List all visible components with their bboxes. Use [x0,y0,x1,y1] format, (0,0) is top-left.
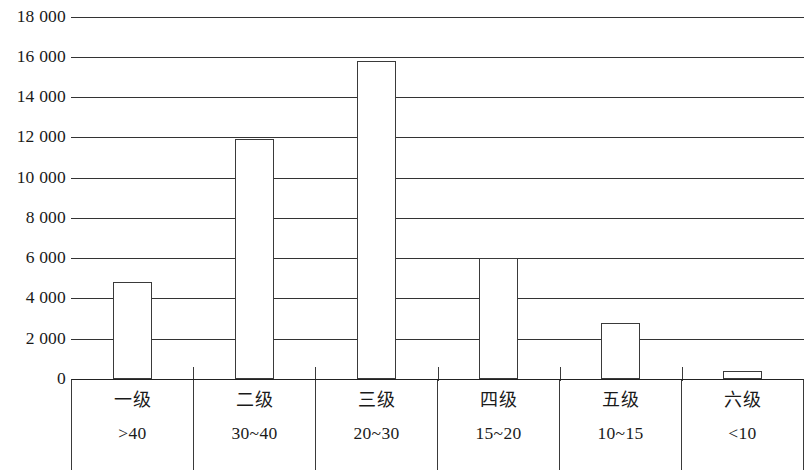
gridline [71,97,804,98]
category-cell: 四级15~20 [438,380,560,470]
bar-三级 [357,61,396,379]
y-axis-tick-label: 16 000 [0,48,66,66]
bar-chart: 02 0004 0006 0008 00010 00012 00014 0001… [0,0,804,470]
bar-四级 [479,258,518,379]
category-cell: 一级>40 [72,380,194,470]
y-axis-tick-label: 4 000 [0,289,66,307]
category-grade-label: 五级 [602,389,640,412]
gridline [71,17,804,18]
y-axis-tick-label: 10 000 [0,169,66,187]
plot-area: 02 0004 0006 0008 00010 00012 00014 0001… [0,0,804,381]
category-grade-label: 六级 [724,389,762,412]
category-cell: 二级30~40 [194,380,316,470]
y-axis-tick-label: 6 000 [0,249,66,267]
category-range-label: <10 [728,423,756,444]
bar-六级 [723,371,762,379]
y-axis-tick-label: 0 [0,370,66,388]
gridline [71,258,804,259]
category-range-label: 30~40 [232,423,278,444]
gridline [71,137,804,138]
gridline [71,339,804,340]
bar-一级 [113,282,152,379]
category-cell: 三级20~30 [316,380,438,470]
y-axis-tick-label: 18 000 [0,8,66,26]
category-range-label: >40 [118,423,146,444]
category-range-label: 15~20 [476,423,522,444]
gridline [71,218,804,219]
category-cell: 五级10~15 [560,380,682,470]
y-axis-tick-label: 2 000 [0,330,66,348]
bar-二级 [235,139,274,379]
y-axis-tick-label: 12 000 [0,128,66,146]
gridline [71,298,804,299]
category-grade-label: 一级 [114,389,152,412]
category-grade-label: 三级 [358,389,396,412]
category-grade-label: 二级 [236,389,274,412]
gridline [71,57,804,58]
category-table: 一级>40二级30~40三级20~30四级15~20五级10~15六级<10 [71,379,804,470]
category-range-label: 20~30 [354,423,400,444]
y-axis-tick-label: 14 000 [0,88,66,106]
category-grade-label: 四级 [480,389,518,412]
bar-五级 [601,323,640,379]
category-cell: 六级<10 [682,380,803,470]
gridline [71,178,804,179]
category-range-label: 10~15 [598,423,644,444]
y-axis-tick-label: 8 000 [0,209,66,227]
